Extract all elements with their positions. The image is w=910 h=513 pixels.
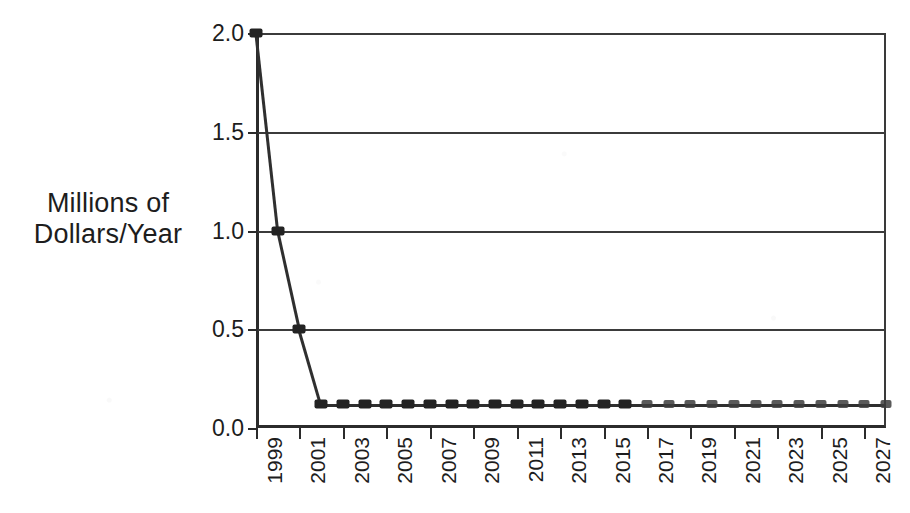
data-point-2024 [794, 400, 805, 408]
data-point-2013 [554, 400, 567, 409]
data-point-2008 [445, 400, 458, 409]
data-point-2002 [315, 400, 328, 409]
data-point-2018 [663, 400, 674, 408]
x-tick-label-2013: 2013 [568, 437, 589, 484]
data-point-2017 [642, 400, 653, 408]
x-tick-2023 [777, 428, 779, 439]
y-tick-label-2: 2.0 [190, 22, 244, 45]
x-tick-label-2007: 2007 [438, 437, 459, 484]
data-point-2015 [597, 400, 610, 409]
x-tick-2021 [734, 428, 736, 439]
x-tick-label-2005: 2005 [394, 437, 415, 484]
data-point-2027 [859, 400, 870, 408]
x-tick-2025 [821, 428, 823, 439]
x-tick-label-2023: 2023 [785, 437, 806, 484]
data-point-2026 [837, 400, 848, 408]
y-tick-label-1: 1.0 [190, 220, 244, 243]
data-point-2010 [488, 400, 501, 409]
x-tick-2013 [560, 428, 562, 439]
x-tick-label-2011: 2011 [525, 437, 546, 482]
data-point-2007 [423, 400, 436, 409]
data-point-2009 [467, 400, 480, 409]
data-point-2006 [402, 400, 415, 409]
chart-figure: Millions of Dollars/Year 2.0 1.5 1.0 0.5… [0, 0, 910, 513]
x-tick-2011 [517, 428, 519, 439]
series-segment [276, 232, 301, 331]
data-point-2001 [293, 325, 306, 334]
x-tick-2017 [647, 428, 649, 439]
x-tick-2007 [430, 428, 432, 439]
x-tick-2015 [604, 428, 606, 439]
x-tick-label-2027: 2027 [872, 437, 893, 484]
x-tick-label-2001: 2001 [307, 437, 328, 484]
data-point-2020 [707, 400, 718, 408]
data-point-2022 [750, 400, 761, 408]
x-tick-label-2003: 2003 [351, 437, 372, 484]
series-segment [298, 330, 323, 406]
data-point-2021 [728, 400, 739, 408]
x-tick-2019 [690, 428, 692, 439]
x-tick-2027 [864, 428, 866, 439]
data-point-2016 [619, 400, 632, 409]
data-point-1999 [250, 29, 263, 38]
y-tick-label-0: 0.0 [190, 417, 244, 440]
y-axis-title: Millions of Dollars/Year [18, 188, 198, 250]
x-tick-2001 [299, 428, 301, 439]
x-tick-1999 [256, 428, 258, 439]
data-point-2000 [271, 226, 284, 235]
data-series-funding [256, 33, 886, 428]
data-point-2019 [685, 400, 696, 408]
y-tick-label-0-5: 0.5 [190, 318, 244, 341]
data-point-2005 [380, 400, 393, 409]
series-segment [255, 34, 280, 232]
x-tick-label-2009: 2009 [481, 437, 502, 484]
plot-area [256, 33, 886, 428]
data-point-2023 [772, 400, 783, 408]
data-point-2012 [532, 400, 545, 409]
x-tick-label-1999: 1999 [264, 437, 285, 484]
x-tick-2009 [473, 428, 475, 439]
x-tick-label-2015: 2015 [612, 437, 633, 484]
x-tick-2003 [343, 428, 345, 439]
x-tick-label-2025: 2025 [829, 437, 850, 484]
x-tick-2005 [386, 428, 388, 439]
data-point-2003 [336, 400, 349, 409]
data-point-2014 [575, 400, 588, 409]
x-tick-label-2017: 2017 [655, 437, 676, 484]
data-point-2011 [510, 400, 523, 409]
data-point-2028 [881, 400, 892, 408]
y-tick-label-1-5: 1.5 [190, 121, 244, 144]
data-point-2004 [358, 400, 371, 409]
x-tick-label-2019: 2019 [698, 437, 719, 484]
data-point-2025 [815, 400, 826, 408]
x-tick-label-2021: 2021 [742, 437, 763, 484]
